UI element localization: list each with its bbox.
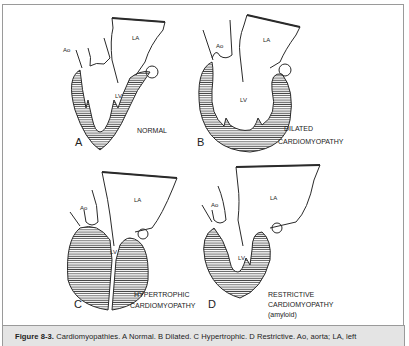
panel-d-la-label: LA bbox=[270, 195, 277, 201]
panel-d-restrictive bbox=[202, 165, 320, 298]
panel-b-la-label: LA bbox=[263, 37, 270, 43]
figure-caption-bar: Figure 8-3. Cardiomyopathies. A Normal. … bbox=[2, 325, 405, 346]
panel-b-letter: B bbox=[197, 136, 204, 148]
cardiomyopathy-diagram: Ao LA LV NORMAL A Ao LA LV DILATED CARDI… bbox=[0, 0, 409, 325]
panel-a-condition: NORMAL bbox=[137, 127, 167, 134]
panel-a-la-label: LA bbox=[132, 35, 139, 41]
figure-caption: Figure 8-3. Cardiomyopathies. A Normal. … bbox=[15, 332, 356, 341]
panel-b-condition-line-2: CARDIOMYOPATHY bbox=[278, 138, 344, 145]
panel-d-condition-line-1: RESTRICTIVE bbox=[268, 291, 315, 298]
panel-b-ao-label: Ao bbox=[216, 43, 224, 49]
figure-caption-text: Cardiomyopathies. A Normal. B Dilated. C… bbox=[56, 332, 356, 341]
panel-d-ao-label: Ao bbox=[211, 202, 219, 208]
panel-b-condition-line-1: DILATED bbox=[284, 125, 313, 132]
panel-c-ao-label: Ao bbox=[80, 205, 88, 211]
panel-c-condition-line-1: HYPERTROPHIC bbox=[134, 291, 190, 298]
panel-d-lv-label: LV bbox=[238, 255, 245, 261]
panel-c-hypertrophic bbox=[68, 172, 178, 310]
panel-d-condition-line-2: CARDIOMYOPATHY bbox=[268, 301, 334, 308]
figure-caption-label: Figure 8-3. bbox=[15, 332, 54, 341]
panel-c-la-label: LA bbox=[134, 197, 141, 203]
panel-a-letter: A bbox=[75, 136, 83, 148]
panel-a-ao-label: Ao bbox=[63, 47, 71, 53]
panel-d-letter: D bbox=[208, 298, 216, 310]
panel-d-condition-line-3: (amyloid) bbox=[268, 311, 297, 319]
panel-a-lv-label: LV bbox=[115, 93, 122, 99]
panel-b-lv-label: LV bbox=[240, 97, 247, 103]
panel-c-condition-line-2: CARDIOMYOPATHY bbox=[130, 302, 196, 309]
panel-c-lv-label: LV bbox=[110, 249, 117, 255]
panel-c-letter: C bbox=[74, 298, 82, 310]
